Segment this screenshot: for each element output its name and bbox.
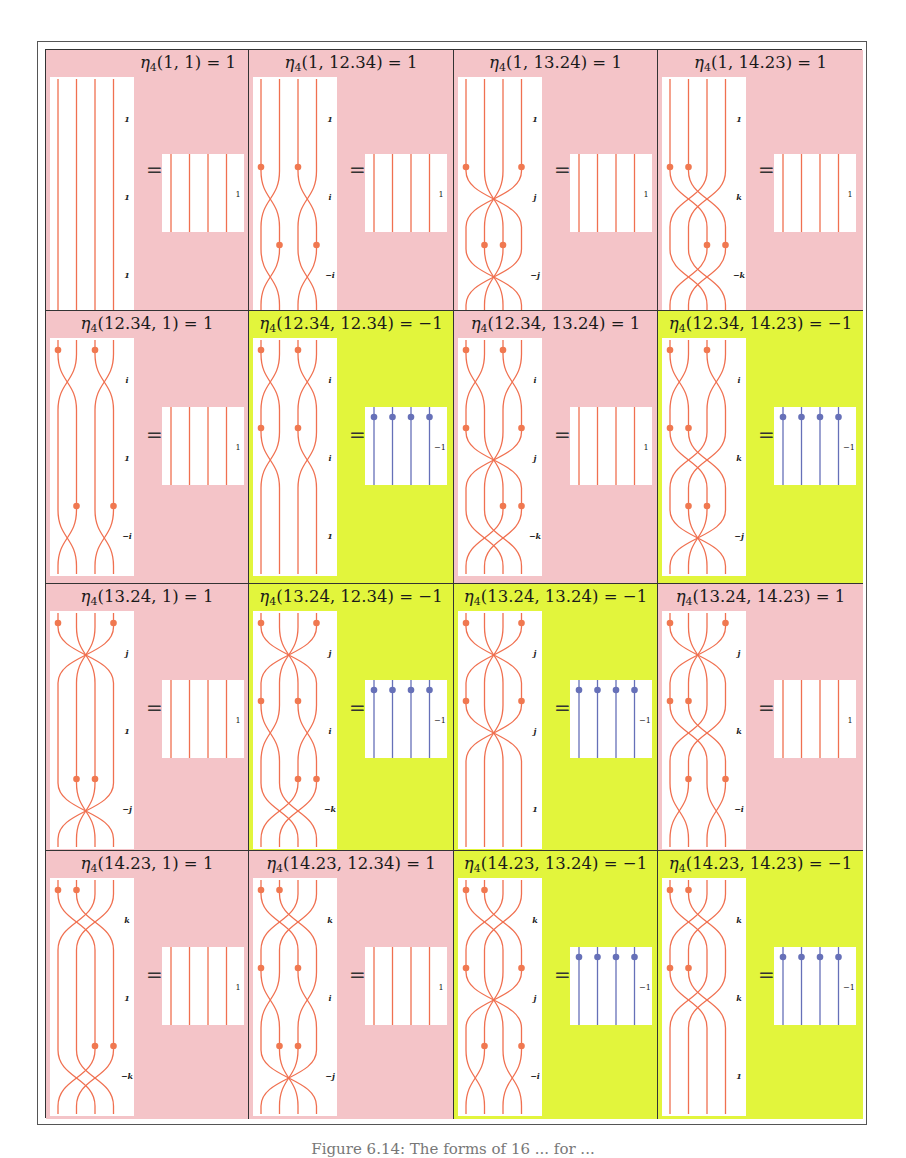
braid-diagram: jk−i xyxy=(662,611,746,849)
sign-dot-icon xyxy=(295,347,302,354)
segment-label: k xyxy=(532,915,538,925)
sign-dot-icon xyxy=(667,698,674,705)
cell-formula: η4(1, 1) = 1 xyxy=(140,53,236,74)
segment-label: 1 xyxy=(124,114,130,124)
sign-dot-icon xyxy=(371,414,378,421)
sign-dot-icon xyxy=(667,887,674,894)
sign-dot-icon xyxy=(426,414,433,421)
segment-label: 1 xyxy=(124,270,130,280)
braid-diagram: kj−i xyxy=(458,878,542,1116)
segment-label: 1 xyxy=(124,993,130,1003)
sign-dot-icon xyxy=(73,776,80,783)
cell-formula: η4(13.24, 12.34) = −1 xyxy=(249,587,453,608)
cell-14.23-12.34: η4(14.23, 12.34) = 1ki−j=1 xyxy=(249,851,454,1119)
sign-dot-icon xyxy=(518,425,525,432)
sign-dot-icon xyxy=(685,503,692,510)
sign-dot-icon xyxy=(463,698,470,705)
sign-dot-icon xyxy=(258,698,265,705)
sign-dot-icon xyxy=(463,425,470,432)
cell-13.24-1: η4(13.24, 1) = 1j1−j=1 xyxy=(46,584,249,851)
result-identity: 1 xyxy=(162,680,244,758)
equals-sign: = xyxy=(758,423,775,447)
sign-dot-icon xyxy=(295,698,302,705)
sign-dot-icon xyxy=(704,347,711,354)
sign-dot-icon xyxy=(835,414,842,421)
sign-dot-icon xyxy=(92,1043,99,1050)
sign-dot-icon xyxy=(258,164,265,171)
segment-label: 1 xyxy=(532,114,538,124)
braid-diagram: 1j−j xyxy=(458,77,542,311)
cell-formula: η4(14.23, 1) = 1 xyxy=(46,854,248,875)
segment-label: i xyxy=(328,453,331,463)
sign-dot-icon xyxy=(780,954,787,961)
segment-label: −i xyxy=(734,804,744,814)
cell-formula: η4(12.34, 14.23) = −1 xyxy=(658,314,863,335)
cell-1-13.24: η4(1, 13.24) = 11j−j=1 xyxy=(454,50,658,311)
cell-formula: η4(14.23, 14.23) = −1 xyxy=(658,854,863,875)
cell-12.34-12.34: η4(12.34, 12.34) = −1ii1=−1 xyxy=(249,311,454,584)
segment-label: 1 xyxy=(124,453,130,463)
equals-sign: = xyxy=(146,963,163,987)
sign-dot-icon xyxy=(463,347,470,354)
braid-diagram: i1−i xyxy=(50,338,134,576)
equals-sign: = xyxy=(554,963,571,987)
sign-dot-icon xyxy=(576,687,583,694)
sign-dot-icon xyxy=(313,242,320,249)
sign-dot-icon xyxy=(73,887,80,894)
sign-dot-icon xyxy=(258,965,265,972)
segment-label: k xyxy=(736,993,742,1003)
sign-dot-icon xyxy=(667,425,674,432)
sign-dot-icon xyxy=(576,954,583,961)
sign-dot-icon xyxy=(798,414,805,421)
sign-dot-icon xyxy=(594,687,601,694)
cell-formula: η4(14.23, 13.24) = −1 xyxy=(454,854,657,875)
segment-label: 1 xyxy=(327,114,333,124)
cell-14.23-13.24: η4(14.23, 13.24) = −1kj−i=−1 xyxy=(454,851,658,1119)
cell-formula: η4(12.34, 12.34) = −1 xyxy=(249,314,453,335)
svg-text:1: 1 xyxy=(438,983,443,992)
sign-dot-icon xyxy=(276,1043,283,1050)
cell-14.23-14.23: η4(14.23, 14.23) = −1kk1=−1 xyxy=(658,851,863,1119)
segment-label: i xyxy=(328,192,331,202)
sign-dot-icon xyxy=(722,776,729,783)
sign-dot-icon xyxy=(518,164,525,171)
sign-dot-icon xyxy=(313,776,320,783)
sign-dot-icon xyxy=(276,242,283,249)
multiplication-table: η4(1, 1) = 1111=1η4(1, 12.34) = 11i−i=1η… xyxy=(45,49,862,1118)
cell-formula: η4(12.34, 1) = 1 xyxy=(46,314,248,335)
svg-text:1: 1 xyxy=(643,190,648,199)
equals-sign: = xyxy=(349,963,366,987)
segment-label: 1 xyxy=(327,531,333,541)
sign-dot-icon xyxy=(667,965,674,972)
sign-dot-icon xyxy=(667,620,674,627)
sign-dot-icon xyxy=(92,776,99,783)
svg-text:−1: −1 xyxy=(434,716,446,725)
sign-dot-icon xyxy=(685,776,692,783)
cell-formula: η4(1, 13.24) = 1 xyxy=(454,53,657,74)
segment-label: −j xyxy=(530,270,540,280)
cell-1-12.34: η4(1, 12.34) = 11i−i=1 xyxy=(249,50,454,311)
sign-dot-icon xyxy=(685,698,692,705)
sign-dot-icon xyxy=(55,347,62,354)
segment-label: −i xyxy=(530,1071,540,1081)
equals-sign: = xyxy=(554,158,571,182)
segment-label: 1 xyxy=(124,726,130,736)
sign-dot-icon xyxy=(295,965,302,972)
sign-dot-icon xyxy=(798,954,805,961)
sign-dot-icon xyxy=(389,414,396,421)
segment-label: i xyxy=(125,375,128,385)
equals-sign: = xyxy=(349,158,366,182)
svg-text:−1: −1 xyxy=(434,443,446,452)
sign-dot-icon xyxy=(481,242,488,249)
braid-diagram: kk1 xyxy=(662,878,746,1116)
sign-dot-icon xyxy=(55,620,62,627)
cell-14.23-1: η4(14.23, 1) = 1k1−k=1 xyxy=(46,851,249,1119)
braid-diagram: ji−k xyxy=(253,611,337,849)
sign-dot-icon xyxy=(258,347,265,354)
sign-dot-icon xyxy=(817,414,824,421)
sign-dot-icon xyxy=(817,954,824,961)
braid-diagram: ik−j xyxy=(662,338,746,576)
braid-diagram: k1−k xyxy=(50,878,134,1116)
segment-label: 1 xyxy=(532,804,538,814)
sign-dot-icon xyxy=(631,687,638,694)
